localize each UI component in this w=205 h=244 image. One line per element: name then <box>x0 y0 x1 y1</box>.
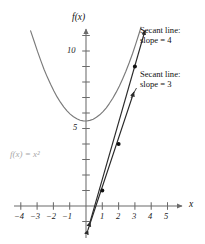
x-tick-label-5: 5 <box>164 212 168 222</box>
y-tick-label-5: 5 <box>73 123 77 133</box>
y-tick-label-10: 10 <box>67 46 76 56</box>
point-2-4 <box>117 142 121 146</box>
x-tick-label-2: 2 <box>116 212 120 222</box>
callout-leader-slope-3 <box>131 88 137 98</box>
x-tick-label-3: 3 <box>132 212 136 222</box>
curve-equation-label: f(x) = x² <box>10 149 40 159</box>
callout-secant-slope-4-line2: slope = 4 <box>140 36 180 46</box>
marked-points <box>100 65 137 193</box>
x-axis-label: x <box>189 199 193 210</box>
x-axis <box>14 202 182 210</box>
x-tick-label-4: 4 <box>148 212 152 222</box>
secant-line-slope-4 <box>90 31 145 222</box>
x-tick-label--1: −1 <box>62 212 72 222</box>
secant-line-slope-3 <box>88 92 134 230</box>
x-tick-label--3: −3 <box>30 212 40 222</box>
callout-secant-slope-3-line2: slope = 3 <box>140 80 180 90</box>
callout-secant-slope-4: Secant line: slope = 4 <box>140 26 180 46</box>
graph-figure: f(x) x 10 5 −4 −3 −2 −1 1 2 3 4 5 f(x) =… <box>0 0 205 244</box>
x-tick-label--2: −2 <box>46 212 56 222</box>
y-axis <box>82 29 90 238</box>
y-axis-label: f(x) <box>72 12 85 23</box>
x-tick-label--4: −4 <box>14 212 24 222</box>
callout-secant-slope-3: Secant line: slope = 3 <box>140 70 180 90</box>
x-tick-label-1: 1 <box>100 212 104 222</box>
point-1-1 <box>100 189 104 193</box>
point-3-9 <box>133 65 137 69</box>
